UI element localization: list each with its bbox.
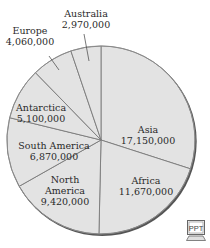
slice-label-europe: Europe4,060,000 — [6, 25, 54, 47]
slice-name: Antarctica — [16, 102, 66, 113]
ppt-monitor-icon: PPT — [186, 219, 206, 243]
slice-label-antarctica: Antarctica5,100,000 — [16, 102, 66, 124]
pie-chart: Asia17,150,000Africa11,670,000NorthAmeri… — [0, 0, 210, 248]
slice-value: 5,100,000 — [16, 113, 66, 124]
slice-value: 2,970,000 — [62, 19, 110, 30]
slice-value: 17,150,000 — [121, 135, 175, 146]
slice-name: Africa — [119, 175, 173, 186]
slice-label-south-america: South America6,870,000 — [18, 140, 89, 162]
slice-name: Australia — [62, 8, 110, 19]
ppt-label: PPT — [189, 224, 204, 233]
slice-name: Europe — [6, 25, 54, 36]
slice-name: America — [41, 185, 89, 196]
slice-value: 11,670,000 — [119, 186, 173, 197]
slice-name: South America — [18, 140, 89, 151]
slice-value: 4,060,000 — [6, 36, 54, 47]
slice-name: North — [41, 174, 89, 185]
slice-label-north-america: NorthAmerica9,420,000 — [41, 174, 89, 207]
slice-label-australia: Australia2,970,000 — [62, 8, 110, 30]
slice-value: 6,870,000 — [18, 151, 89, 162]
slice-value: 9,420,000 — [41, 196, 89, 207]
slice-name: Asia — [121, 124, 175, 135]
ppt-icon[interactable]: PPT — [186, 219, 206, 243]
slice-label-africa: Africa11,670,000 — [119, 175, 173, 197]
slice-label-asia: Asia17,150,000 — [121, 124, 175, 146]
